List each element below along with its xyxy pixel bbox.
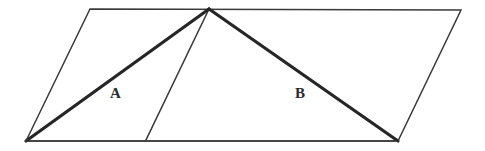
triangle-a-label: A <box>110 86 121 101</box>
diagram-background <box>0 0 485 151</box>
figure-canvas: A B <box>0 0 485 151</box>
geometry-diagram <box>0 0 485 151</box>
triangle-b-label: B <box>295 86 305 101</box>
